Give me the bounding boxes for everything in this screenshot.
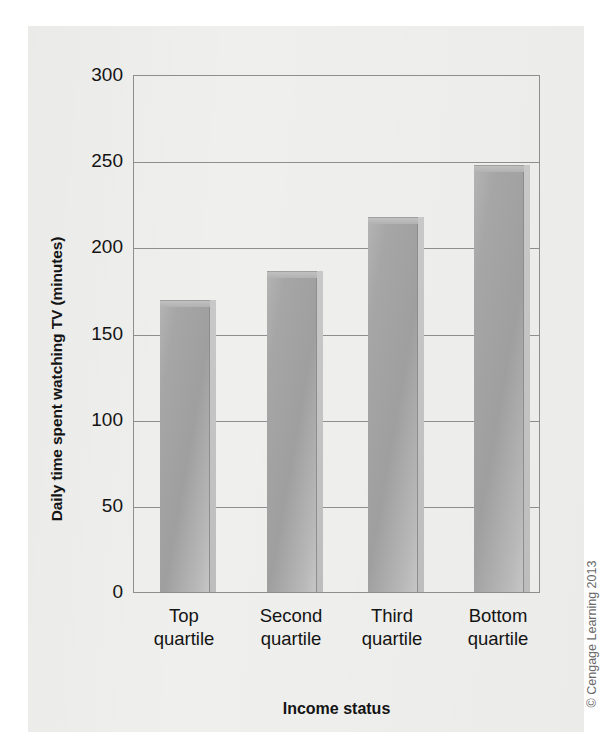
- y-tick-0: 0: [55, 581, 123, 603]
- x-tick-line2: quartile: [124, 627, 244, 650]
- bar-chart-figure: Daily time spent watching TV (minutes) 3…: [0, 0, 612, 750]
- plot-area: [133, 75, 540, 593]
- x-tick-third-quartile: Third quartile: [332, 604, 452, 650]
- bar-top-cap: [474, 165, 524, 172]
- x-axis-title: Income status: [133, 700, 540, 718]
- x-tick-line1: Third: [332, 604, 452, 627]
- y-tick-200: 200: [55, 236, 123, 258]
- x-tick-top-quartile: Top quartile: [124, 604, 244, 650]
- y-tick-50: 50: [55, 495, 123, 517]
- y-tick-250: 250: [55, 150, 123, 172]
- bar-third-quartile[interactable]: [368, 217, 418, 592]
- bar-side-face: [524, 165, 530, 592]
- y-tick-150: 150: [55, 323, 123, 345]
- bar-bottom-quartile[interactable]: [474, 165, 524, 592]
- bar-front-face: [267, 271, 317, 592]
- x-tick-line1: Top: [124, 604, 244, 627]
- bar-side-face: [210, 300, 216, 592]
- bar-top-cap: [267, 271, 317, 278]
- y-tick-100: 100: [55, 409, 123, 431]
- x-tick-bottom-quartile: Bottom quartile: [438, 604, 558, 650]
- bar-side-face: [418, 217, 424, 592]
- bar-top-quartile[interactable]: [160, 300, 210, 592]
- x-tick-line1: Bottom: [438, 604, 558, 627]
- x-tick-line2: quartile: [438, 627, 558, 650]
- bar-front-face: [160, 300, 210, 592]
- bar-front-face: [368, 217, 418, 592]
- bar-top-cap: [160, 300, 210, 307]
- bar-second-quartile[interactable]: [267, 271, 317, 592]
- y-tick-300: 300: [55, 64, 123, 86]
- x-tick-line2: quartile: [332, 627, 452, 650]
- bar-side-face: [317, 271, 323, 592]
- copyright-notice: © Cengage Learning 2013: [585, 539, 599, 729]
- bar-front-face: [474, 165, 524, 592]
- gridline-250: [134, 162, 539, 163]
- bar-top-cap: [368, 217, 418, 224]
